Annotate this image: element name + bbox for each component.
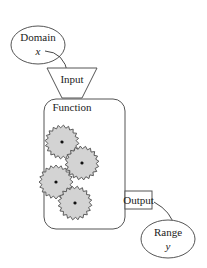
range-variable: y [165, 240, 171, 252]
range-label: Range [154, 226, 182, 238]
output-label: Output [123, 194, 154, 206]
function-machine-diagram: Domain x Input Function Output Range y [0, 0, 207, 268]
function-node: Function [39, 99, 125, 229]
output-node: Output [123, 191, 154, 209]
range-node: Range y [141, 220, 195, 258]
input-node: Input [47, 68, 97, 98]
input-label: Input [60, 73, 83, 85]
domain-variable: x [35, 45, 41, 57]
function-label: Function [52, 101, 92, 113]
domain-node: Domain x [11, 26, 65, 64]
domain-label: Domain [20, 31, 56, 43]
